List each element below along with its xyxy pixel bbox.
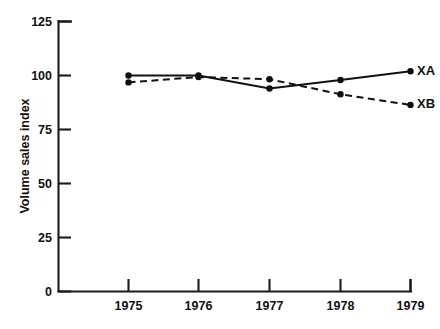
series-xb: XB	[125, 74, 435, 112]
series-xb-point-1977	[266, 76, 272, 82]
y-tick-label-100: 100	[31, 69, 52, 83]
x-tick-label-1979: 1979	[397, 299, 425, 313]
y-tick-label-0: 0	[45, 285, 52, 299]
chart-canvas: 125 100 75 50 25 0 1975 1976 1977 1978 1…	[0, 0, 440, 329]
y-tick-label-25: 25	[38, 231, 52, 245]
series-xa-point-1975	[125, 72, 131, 78]
y-tick-label-75: 75	[38, 123, 52, 137]
series-xa-label: XA	[417, 63, 436, 78]
series-xa-point-1978	[337, 77, 343, 83]
series-xb-label: XB	[417, 96, 435, 111]
y-tick-label-125: 125	[31, 15, 52, 29]
y-tick-group	[59, 22, 72, 292]
series-xa-point-1979	[407, 68, 413, 74]
y-axis-title: Volume sales index	[18, 98, 32, 213]
y-tick-label-50: 50	[38, 177, 52, 191]
axes-group	[59, 21, 412, 292]
series-xb-point-1975	[125, 79, 131, 85]
x-tick-label-1976: 1976	[185, 299, 213, 313]
x-tick-group	[129, 279, 411, 292]
series-xa: XA	[125, 63, 435, 92]
series-xb-point-1978	[337, 91, 343, 97]
x-tick-label-1975: 1975	[115, 299, 143, 313]
series-xb-point-1979	[407, 102, 413, 108]
line-chart: 125 100 75 50 25 0 1975 1976 1977 1978 1…	[0, 0, 440, 329]
y-tick-labels: 125 100 75 50 25 0	[31, 15, 52, 299]
x-tick-label-1977: 1977	[256, 299, 284, 313]
series-xa-point-1976	[195, 72, 201, 78]
x-tick-labels: 1975 1976 1977 1978 1979	[115, 299, 425, 313]
series-xa-point-1977	[266, 85, 272, 91]
x-tick-label-1978: 1978	[327, 299, 355, 313]
